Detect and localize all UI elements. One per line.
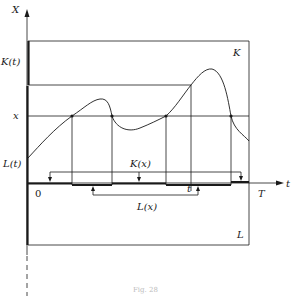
K-region-label: K (232, 47, 241, 58)
L-x-arrowhead-left (91, 186, 95, 191)
K-x-arrowhead-right (239, 176, 243, 181)
figure-diagram: X t K(t) x L(t) 0 T K L K(x) L(x) t Fig.… (0, 0, 291, 296)
function-curve (28, 69, 249, 158)
K-x-arrowhead-left (48, 177, 52, 182)
t-axis-label: t (286, 178, 291, 189)
K-x-arrowhead-middle (137, 177, 141, 182)
K-t-label: K(t) (0, 56, 20, 67)
K-x-label: K(x) (129, 158, 151, 169)
L-t-label: L(t) (2, 158, 22, 169)
y-axis-arrowhead (25, 9, 30, 17)
T-label: T (258, 188, 266, 199)
figure-caption: Fig. 28 (133, 286, 158, 294)
origin-label: 0 (35, 188, 41, 199)
L-x-label: L(x) (136, 201, 157, 212)
L-region-label: L (236, 229, 244, 240)
x-level-label: x (13, 110, 19, 121)
t-axis-arrowhead (276, 181, 284, 186)
L-x-arrowhead-right (196, 186, 200, 191)
y-axis-label: X (11, 4, 20, 15)
